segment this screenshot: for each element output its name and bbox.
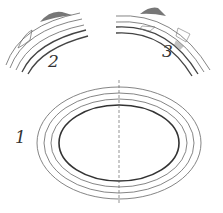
panel-label-1: 1 [15,127,26,147]
panel-2-arcs [6,13,88,74]
panel-2-deposit [40,12,72,22]
panel-label-2: 2 [48,51,59,71]
panel-label-3: 3 [162,41,173,61]
panel-3-inclusion-2 [176,28,190,42]
panel-3-deposit [140,8,166,16]
figure-canvas [0,0,223,213]
panel-3-inclusion-1 [140,26,155,31]
